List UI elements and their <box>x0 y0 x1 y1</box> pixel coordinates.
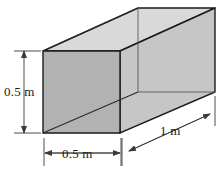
duct-body <box>43 8 215 133</box>
width-dimension-label: 0.5 m <box>62 147 93 160</box>
depth-dimension-label: 1 m <box>160 124 180 137</box>
front-face <box>43 51 120 133</box>
height-dimension-label: 0.5 m <box>4 85 35 98</box>
figure-container: 0.5 m 0.5 m 1 m <box>0 0 222 169</box>
